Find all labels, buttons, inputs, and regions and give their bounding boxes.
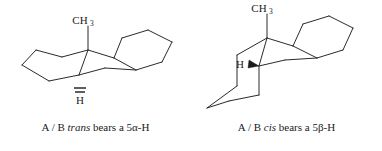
cis-ring-b: [259, 16, 353, 66]
caption-cis-prefix: A / B: [238, 121, 264, 133]
panel-trans-decalin: CH 3 H A / B trans bears a 5α-H: [0, 0, 191, 151]
decalin-stereochemistry-figure: CH 3 H A / B trans bears a 5α-H: [0, 0, 382, 151]
caption-trans-emphasis: trans: [68, 121, 91, 133]
panel-cis-decalin: CH 3 H A / B cis bears a 5β-H: [191, 0, 382, 151]
trans-decalin-structure: CH 3 H: [0, 0, 191, 118]
trans-hydrogen-label: H: [76, 94, 84, 106]
cis-hydrogen-label: H: [236, 58, 244, 70]
trans-methyl-label: CH 3: [72, 14, 94, 28]
svg-text:CH: CH: [72, 14, 87, 26]
caption-trans-suffix: bears a 5α-H: [90, 121, 149, 133]
trans-ring-a: [22, 50, 88, 81]
svg-text:3: 3: [269, 7, 273, 16]
cis-wedge-bond: [248, 60, 259, 68]
caption-cis-suffix: bears a 5β-H: [276, 121, 335, 133]
trans-ring-b: [79, 30, 172, 75]
svg-text:CH: CH: [251, 2, 266, 14]
cis-decalin-structure: CH 3 H: [191, 0, 382, 118]
svg-text:3: 3: [90, 19, 94, 28]
caption-cis: A / B cis bears a 5β-H: [191, 120, 382, 135]
trans-hashed-bond: [74, 88, 86, 92]
cis-ring-a: [207, 38, 267, 108]
cis-methyl-label: CH 3: [251, 2, 273, 16]
caption-cis-emphasis: cis: [264, 121, 276, 133]
caption-trans-prefix: A / B: [42, 121, 68, 133]
caption-trans: A / B trans bears a 5α-H: [0, 120, 191, 135]
